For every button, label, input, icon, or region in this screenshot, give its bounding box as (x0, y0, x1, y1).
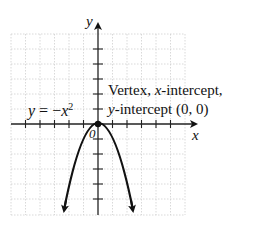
x-axis-label: x (192, 128, 199, 143)
equation-label: y = −x2 (28, 102, 73, 119)
right-arrowhead-icon (131, 200, 133, 211)
annotation-text: Vertex, (108, 82, 155, 98)
y-axis-label: y (86, 14, 93, 29)
equation-eq: = − (35, 102, 61, 119)
annotation-text: -intercept (0, 0) (115, 101, 209, 117)
left-arrowhead-icon (64, 200, 66, 211)
vertex-annotation-line2: y-intercept (0, 0) (108, 102, 208, 117)
annotation-text: -intercept, (161, 82, 222, 98)
annotation-var: y (108, 101, 115, 117)
vertex-annotation-line1: Vertex, x-intercept, (108, 83, 223, 98)
origin-label: 0 (89, 127, 96, 140)
axes (11, 24, 196, 215)
equation-exponent: 2 (68, 101, 73, 112)
